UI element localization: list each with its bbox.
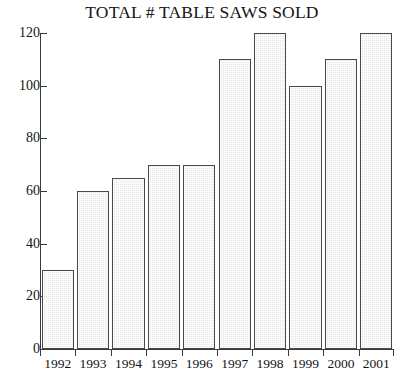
x-tick-label: 1992 [40, 357, 75, 371]
bar [42, 270, 74, 349]
bar-series [40, 33, 394, 349]
x-tick-mark [111, 349, 112, 356]
bar [254, 33, 286, 349]
bar [77, 191, 109, 349]
x-tick-label: 1999 [288, 357, 323, 371]
bar [219, 59, 251, 349]
x-tick-mark [288, 349, 289, 356]
x-tick-mark [393, 349, 394, 356]
x-tick-label: 1998 [252, 357, 287, 371]
bar-chart-figure: TOTAL # TABLE SAWS SOLD 020406080100120 … [0, 0, 404, 380]
x-tick-label: 1996 [182, 357, 217, 371]
x-tick-mark [252, 349, 253, 356]
x-tick-label: 1994 [111, 357, 146, 371]
chart-title: TOTAL # TABLE SAWS SOLD [0, 2, 404, 23]
x-tick-mark [75, 349, 76, 356]
x-tick-mark [323, 349, 324, 356]
bar [148, 165, 180, 349]
x-tick-mark [359, 349, 360, 356]
bar [112, 178, 144, 349]
x-tick-mark [217, 349, 218, 356]
bar [360, 33, 392, 349]
x-tick-label: 2001 [359, 357, 394, 371]
bar [325, 59, 357, 349]
x-tick-label: 1995 [146, 357, 181, 371]
x-tick-mark [182, 349, 183, 356]
x-tick-label: 2000 [323, 357, 358, 371]
x-tick-mark [40, 349, 41, 356]
bar [183, 165, 215, 349]
x-tick-label: 1993 [75, 357, 110, 371]
x-axis-tick-labels: 1992199319941995199619971998199920002001 [40, 357, 394, 377]
x-tick-mark [146, 349, 147, 356]
bar [289, 86, 321, 349]
x-tick-label: 1997 [217, 357, 252, 371]
